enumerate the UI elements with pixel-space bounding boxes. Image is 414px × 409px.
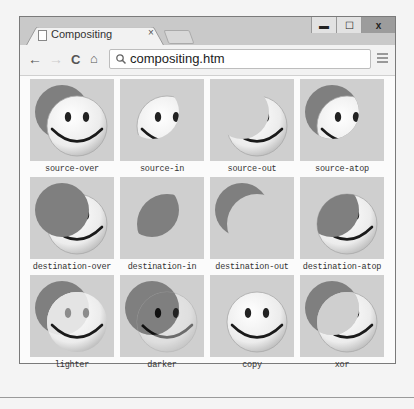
- composite-canvas: [120, 79, 204, 161]
- composite-canvas: [210, 79, 294, 161]
- smiley-composite-image: [30, 275, 114, 357]
- composite-label: source-atop: [300, 164, 384, 174]
- composite-label: xor: [300, 360, 384, 370]
- back-button[interactable]: ←: [28, 51, 42, 67]
- composite-canvas: [210, 275, 294, 357]
- address-input[interactable]: compositing.htm: [130, 51, 225, 66]
- composite-canvas: [120, 275, 204, 357]
- composite-label: destination-out: [210, 262, 294, 272]
- composite-tile-destination-over: destination-over: [30, 177, 114, 275]
- composite-tile-destination-atop: destination-atop: [300, 177, 384, 275]
- composite-label: destination-in: [120, 262, 204, 272]
- smiley-composite-image: [210, 275, 294, 357]
- composite-label: source-over: [30, 164, 114, 174]
- tab-title[interactable]: Compositing: [51, 28, 112, 40]
- composite-label: copy: [210, 360, 294, 370]
- composite-canvas: [30, 177, 114, 259]
- desktop-divider: [0, 397, 414, 398]
- home-button[interactable]: ⌂: [90, 51, 98, 66]
- search-icon: [115, 53, 129, 67]
- new-tab-button[interactable]: [163, 30, 194, 44]
- composite-canvas: [300, 79, 384, 161]
- smiley-composite-image: [30, 177, 114, 259]
- smiley-composite-image: [300, 275, 384, 357]
- maximize-button[interactable]: ☐: [336, 17, 361, 33]
- composite-canvas: [300, 177, 384, 259]
- composite-label: source-out: [210, 164, 294, 174]
- composite-tile-source-atop: source-atop: [300, 79, 384, 177]
- composite-label: destination-atop: [300, 262, 384, 272]
- composite-tile-xor: xor: [300, 275, 384, 373]
- composite-grid: source-over source-in source-out: [30, 79, 384, 373]
- smiley-composite-image: [120, 177, 204, 259]
- close-window-button[interactable]: x: [361, 17, 395, 33]
- composite-label: source-in: [120, 164, 204, 174]
- composite-tile-destination-in: destination-in: [120, 177, 204, 275]
- smiley-composite-image: [300, 177, 384, 259]
- composite-label: destination-over: [30, 262, 114, 272]
- browser-window: Compositing × ▬ ☐ x ← → C ⌂ compositing.…: [19, 16, 396, 364]
- composite-tile-source-over: source-over: [30, 79, 114, 177]
- page-content: source-over source-in source-out: [20, 75, 395, 363]
- composite-tile-darker: darker: [120, 275, 204, 373]
- address-bar[interactable]: compositing.htm: [109, 49, 371, 69]
- page-icon: [38, 30, 47, 41]
- reload-button[interactable]: C: [71, 52, 80, 67]
- hamburger-icon[interactable]: [377, 53, 388, 65]
- composite-canvas: [120, 177, 204, 259]
- title-bar[interactable]: Compositing × ▬ ☐ x: [20, 17, 395, 45]
- tab-close-button[interactable]: ×: [148, 27, 154, 38]
- composite-tile-lighter: lighter: [30, 275, 114, 373]
- minimize-button[interactable]: ▬: [311, 17, 336, 33]
- smiley-composite-image: [210, 177, 294, 259]
- composite-canvas: [300, 275, 384, 357]
- smiley-composite-image: [210, 79, 294, 161]
- window-controls: ▬ ☐ x: [311, 17, 395, 33]
- smiley-composite-image: [30, 79, 114, 161]
- smiley-composite-image: [300, 79, 384, 161]
- smiley-composite-image: [120, 275, 204, 357]
- forward-button[interactable]: →: [49, 51, 63, 67]
- smiley-composite-image: [120, 79, 204, 161]
- composite-canvas: [210, 177, 294, 259]
- composite-label: lighter: [30, 360, 114, 370]
- composite-tile-source-out: source-out: [210, 79, 294, 177]
- toolbar: ← → C ⌂ compositing.htm: [20, 45, 395, 76]
- composite-tile-destination-out: destination-out: [210, 177, 294, 275]
- composite-tile-source-in: source-in: [120, 79, 204, 177]
- composite-canvas: [30, 275, 114, 357]
- composite-tile-copy: copy: [210, 275, 294, 373]
- composite-canvas: [30, 79, 114, 161]
- composite-label: darker: [120, 360, 204, 370]
